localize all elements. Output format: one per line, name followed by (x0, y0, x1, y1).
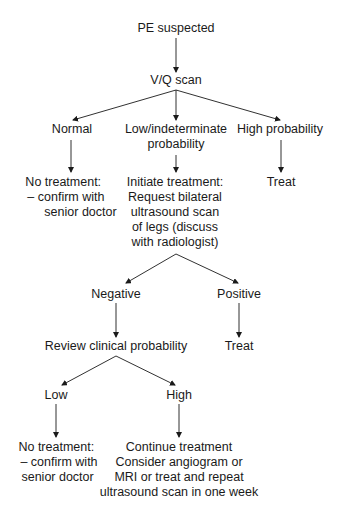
arrow-initiate-to-negative (126, 254, 176, 283)
node-low: Low (45, 388, 68, 403)
arrow-review-to-low (62, 356, 116, 385)
node-initiate-treatment: Initiate treatment: Request bilateral ul… (127, 175, 224, 250)
node-text: – confirm with (18, 455, 97, 470)
arrow-review-to-high (116, 356, 175, 385)
node-text: Consider angiogram or (100, 455, 258, 470)
arrow-initiate-to-positive (176, 254, 238, 283)
node-text: probability (125, 137, 227, 152)
node-text: No treatment: (25, 175, 116, 190)
node-text: High (166, 388, 192, 403)
node-treat-1: Treat (267, 175, 296, 190)
node-low-indeterminate: Low/indeterminate probability (125, 122, 227, 152)
node-continue-treatment: Continue treatment Consider angiogram or… (100, 440, 258, 500)
node-text: Continue treatment (100, 440, 258, 455)
node-text: Initiate treatment: (127, 175, 224, 190)
node-pe-suspected: PE suspected (137, 21, 214, 36)
node-review-clinical-probability: Review clinical probability (45, 339, 187, 354)
node-normal: Normal (52, 122, 92, 137)
node-text: MRI or treat and repeat (100, 470, 258, 485)
node-treat-2: Treat (225, 339, 254, 354)
node-text: Low (45, 388, 68, 403)
node-negative: Negative (91, 287, 140, 302)
node-text: – confirm with (25, 190, 116, 205)
node-high-probability: High probability (237, 122, 323, 137)
node-text: senior doctor (25, 205, 116, 220)
node-no-treatment-2: No treatment: – confirm with senior doct… (18, 440, 97, 485)
node-text: with radiologist) (127, 235, 224, 250)
node-text: Review clinical probability (45, 339, 187, 354)
node-text: Treat (225, 339, 254, 354)
arrow-vq-to-high (176, 90, 280, 120)
node-text: of legs (discuss (127, 220, 224, 235)
node-positive: Positive (217, 287, 261, 302)
node-high: High (166, 388, 192, 403)
node-text: V/Q scan (150, 73, 201, 88)
node-no-treatment-1: No treatment: – confirm with senior doct… (25, 175, 116, 220)
node-text: Request bilateral (127, 190, 224, 205)
node-text: Negative (91, 287, 140, 302)
node-text: ultrasound scan in one week (100, 485, 258, 500)
node-text: senior doctor (18, 470, 97, 485)
node-vq-scan: V/Q scan (150, 73, 201, 88)
arrow-vq-to-normal (73, 90, 176, 120)
node-text: Normal (52, 122, 92, 137)
node-text: No treatment: (18, 440, 97, 455)
node-text: Low/indeterminate (125, 122, 227, 137)
node-text: PE suspected (137, 21, 214, 36)
node-text: High probability (237, 122, 323, 137)
node-text: Positive (217, 287, 261, 302)
node-text: ultrasound scan (127, 205, 224, 220)
node-text: Treat (267, 175, 296, 190)
